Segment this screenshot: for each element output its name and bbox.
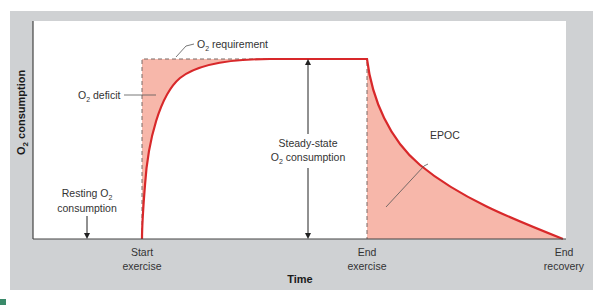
resting-label-line2: consumption: [57, 202, 117, 214]
start-exercise-tick-line1: Start: [131, 246, 153, 258]
start-exercise-tick-line2: exercise: [122, 260, 161, 272]
corner-marker: [0, 299, 6, 305]
steady-state-label-line1: Steady-state: [279, 137, 338, 149]
end-recovery-tick-line1: End: [555, 246, 574, 258]
x-axis-title: Time: [287, 273, 312, 285]
end-recovery-tick-line2: recovery: [544, 260, 585, 272]
end-exercise-tick-line1: End: [358, 246, 377, 258]
o2-deficit-label: O2 deficit: [78, 89, 121, 103]
o2-consumption-diagram: O2 requirement O2 deficit Steady-state O…: [0, 0, 602, 305]
resting-label-line1: Resting O2: [62, 187, 113, 201]
end-exercise-tick-line2: exercise: [347, 260, 386, 272]
steady-state-label-line2: O2 consumption: [271, 151, 346, 165]
epoc-label: EPOC: [430, 129, 460, 141]
